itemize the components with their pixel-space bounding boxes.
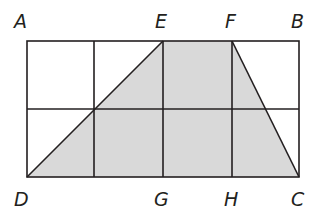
label-f: F — [225, 10, 237, 32]
label-h: H — [224, 188, 238, 210]
label-b: B — [291, 10, 304, 32]
label-a: A — [12, 10, 27, 32]
geometry-diagram: A E F B D G H C — [0, 0, 321, 216]
label-d: D — [14, 188, 29, 210]
label-c: C — [291, 188, 305, 210]
label-e: E — [155, 10, 167, 32]
label-g: G — [154, 188, 169, 210]
